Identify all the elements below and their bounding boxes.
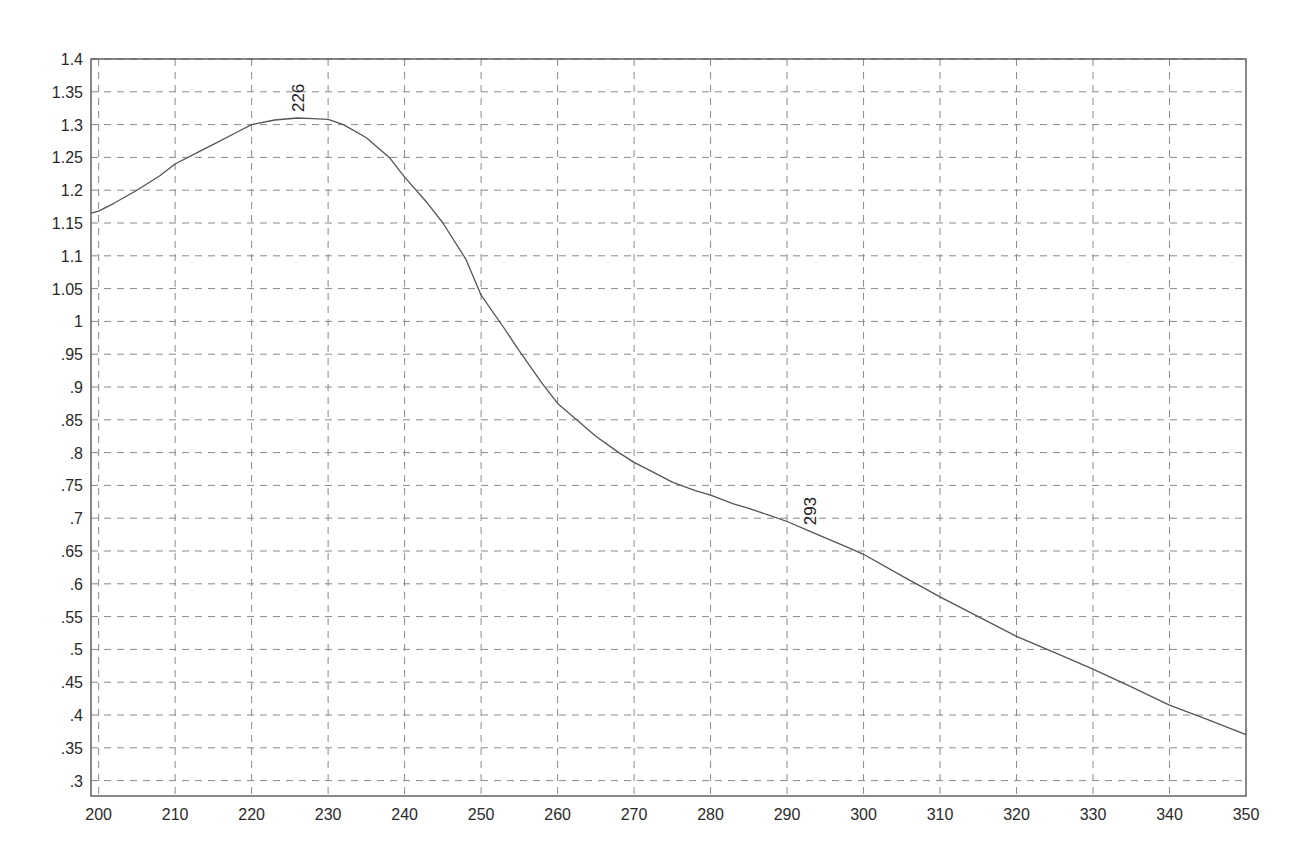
- x-tick-label: 200: [85, 806, 112, 823]
- x-tick-label: 240: [391, 806, 418, 823]
- y-tick-label: 1.4: [61, 51, 83, 68]
- y-tick-label: 1.3: [61, 117, 83, 134]
- absorbance-spectrum-chart: 1.41.351.31.251.21.151.11.051.95.9.85.8.…: [0, 0, 1311, 862]
- peak-annotations: 226293: [289, 84, 820, 526]
- x-tick-label: 260: [544, 806, 571, 823]
- x-tick-label: 310: [927, 806, 954, 823]
- y-tick-label: .75: [61, 477, 83, 494]
- y-tick-label: 1.1: [61, 248, 83, 265]
- y-tick-label: .55: [61, 609, 83, 626]
- y-tick-label: .65: [61, 543, 83, 560]
- peak-label: 226: [289, 84, 308, 112]
- y-tick-label: .5: [70, 641, 83, 658]
- x-axis-tick-labels: 2002102202302402502602702802903003103203…: [85, 806, 1259, 823]
- grid-lines: [91, 59, 1246, 796]
- y-tick-label: 1.25: [52, 149, 83, 166]
- y-tick-label: .8: [70, 445, 83, 462]
- y-tick-label: .85: [61, 412, 83, 429]
- x-tick-label: 270: [621, 806, 648, 823]
- spectrum-line: [91, 118, 1246, 735]
- y-tick-label: 1.05: [52, 281, 83, 298]
- x-tick-label: 230: [315, 806, 342, 823]
- x-tick-label: 340: [1156, 806, 1183, 823]
- x-tick-label: 220: [238, 806, 265, 823]
- y-tick-label: .6: [70, 576, 83, 593]
- x-tick-label: 300: [850, 806, 877, 823]
- y-tick-label: 1: [74, 313, 83, 330]
- y-tick-label: .7: [70, 510, 83, 527]
- y-tick-label: .35: [61, 740, 83, 757]
- y-tick-label: 1.35: [52, 84, 83, 101]
- y-tick-label: 1.15: [52, 215, 83, 232]
- x-tick-label: 320: [1003, 806, 1030, 823]
- y-tick-label: 1.2: [61, 182, 83, 199]
- peak-label: 293: [801, 497, 820, 525]
- x-tick-label: 250: [468, 806, 495, 823]
- y-tick-label: .45: [61, 674, 83, 691]
- x-tick-label: 210: [162, 806, 189, 823]
- y-tick-label: .9: [70, 379, 83, 396]
- plot-frame: [91, 59, 1246, 796]
- x-tick-label: 290: [774, 806, 801, 823]
- y-tick-label: .4: [70, 707, 83, 724]
- x-tick-label: 330: [1080, 806, 1107, 823]
- y-tick-label: .95: [61, 346, 83, 363]
- y-axis-tick-labels: 1.41.351.31.251.21.151.11.051.95.9.85.8.…: [52, 51, 83, 790]
- y-tick-label: .3: [70, 773, 83, 790]
- x-tick-label: 280: [697, 806, 724, 823]
- x-tick-label: 350: [1233, 806, 1260, 823]
